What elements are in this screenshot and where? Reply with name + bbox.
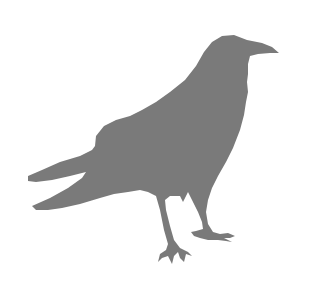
image-canvas [0,0,315,292]
crow-silhouette-icon [0,0,315,292]
